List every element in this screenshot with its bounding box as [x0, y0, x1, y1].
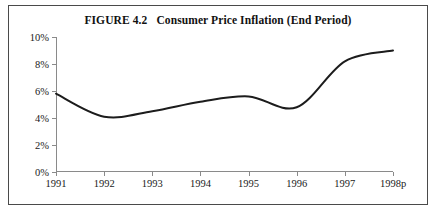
y-axis-label: 8% [35, 59, 49, 70]
x-axis-tick [200, 172, 201, 176]
figure-frame: FIGURE 4.2Consumer Price Inflation (End … [8, 5, 428, 205]
figure-number: FIGURE 4.2 [84, 14, 147, 26]
plot-area: 0%2%4%6%8%10% 19911992199319941995199619… [56, 37, 393, 172]
x-axis-tick [393, 172, 394, 176]
x-axis-label: 1991 [46, 178, 67, 189]
x-axis-label: 1994 [190, 178, 211, 189]
y-axis-label: 10% [30, 32, 49, 43]
x-axis-tick [56, 172, 57, 176]
x-axis-label: 1996 [286, 178, 307, 189]
figure-title: FIGURE 4.2Consumer Price Inflation (End … [9, 14, 427, 26]
x-axis-tick [345, 172, 346, 176]
figure-title-text: Consumer Price Inflation (End Period) [156, 14, 351, 26]
y-axis-label: 0% [35, 167, 49, 178]
inflation-line-series [56, 37, 393, 172]
x-axis-tick [249, 172, 250, 176]
x-axis-tick [104, 172, 105, 176]
y-axis-label: 2% [35, 140, 49, 151]
x-axis-label: 1992 [94, 178, 115, 189]
x-axis-tick [152, 172, 153, 176]
x-axis-label: 1998p [380, 178, 406, 189]
x-axis-label: 1995 [238, 178, 259, 189]
inflation-line-path [56, 51, 393, 118]
y-axis-label: 4% [35, 113, 49, 124]
x-axis-label: 1997 [334, 178, 355, 189]
x-axis-tick [297, 172, 298, 176]
x-axis-label: 1993 [142, 178, 163, 189]
y-axis-label: 6% [35, 86, 49, 97]
